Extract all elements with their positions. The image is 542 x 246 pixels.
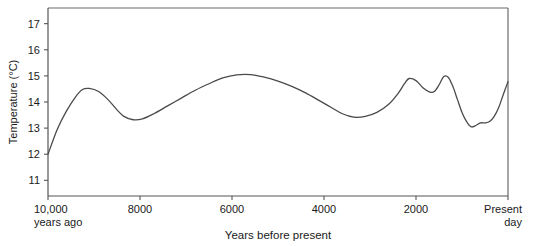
y-tick-label: 12 xyxy=(28,148,40,160)
y-axis-title: Temperature (°C) xyxy=(7,60,19,144)
chart-canvas: 17161514131211 10,000years ago8000600040… xyxy=(0,0,542,246)
x-tick-sublabel: day xyxy=(504,216,522,228)
x-tick-label: 8000 xyxy=(128,203,152,215)
y-tick-label: 14 xyxy=(28,96,40,108)
x-tick-label: 4000 xyxy=(312,203,336,215)
y-tick-label: 17 xyxy=(28,18,40,30)
x-axis-ticks xyxy=(48,196,508,200)
y-tick-label: 13 xyxy=(28,122,40,134)
x-axis-title: Years before present xyxy=(225,229,332,241)
temperature-line xyxy=(48,74,508,154)
y-tick-label: 11 xyxy=(29,174,40,186)
x-axis-tick-labels: 10,000years ago8000600040002000Presentda… xyxy=(34,203,522,228)
x-tick-sublabel: years ago xyxy=(34,216,82,228)
x-tick-label: 2000 xyxy=(404,203,428,215)
y-axis-tick-labels: 17161514131211 xyxy=(28,18,40,187)
y-tick-label: 15 xyxy=(28,70,40,82)
x-tick-label: Present xyxy=(484,203,522,215)
x-tick-label: 6000 xyxy=(220,203,244,215)
temperature-chart: 17161514131211 10,000years ago8000600040… xyxy=(0,0,542,246)
y-tick-label: 16 xyxy=(28,44,40,56)
x-tick-label: 10,000 xyxy=(34,203,68,215)
